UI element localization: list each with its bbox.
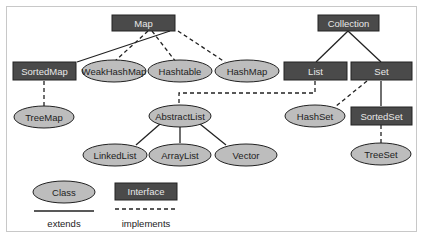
interface-collection: Collection	[318, 15, 379, 31]
svg-text:Vector: Vector	[233, 150, 260, 161]
svg-text:List: List	[308, 66, 323, 77]
edge-set-collection	[348, 31, 381, 62]
class-hashtable: Hashtable	[148, 60, 212, 82]
svg-text:Set: Set	[374, 66, 389, 77]
svg-text:Hashtable: Hashtable	[159, 66, 202, 77]
class-hierarchy-diagram: Map SortedMap Collection List Set Sorted…	[0, 0, 423, 241]
legend-extends-label: extends	[47, 218, 81, 229]
svg-text:WeakHashMap: WeakHashMap	[82, 66, 147, 77]
svg-text:AbstractList: AbstractList	[155, 111, 205, 122]
class-abstractlist: AbstractList	[149, 105, 211, 127]
interface-sortedset: SortedSet	[351, 107, 412, 125]
legend-implements-label: implements	[122, 218, 171, 229]
edge-vector-abstractlist	[200, 124, 226, 145]
edge-sortedmap-map	[77, 31, 170, 62]
class-treeset: TreeSet	[351, 143, 411, 165]
interface-sortedmap: SortedMap	[13, 62, 76, 80]
edge-list-collection	[316, 31, 348, 62]
class-weakhashmap: WeakHashMap	[82, 60, 147, 82]
class-vector: Vector	[215, 144, 277, 166]
class-treemap: TreeMap	[14, 106, 74, 128]
connectors	[44, 31, 381, 145]
svg-text:HashMap: HashMap	[227, 66, 268, 77]
svg-text:ArrayList: ArrayList	[161, 150, 199, 161]
class-hashmap: HashMap	[215, 60, 279, 82]
class-arraylist: ArrayList	[149, 144, 211, 166]
svg-text:Collection: Collection	[328, 18, 370, 29]
interface-map: Map	[112, 15, 175, 31]
svg-text:TreeMap: TreeMap	[25, 112, 63, 123]
edge-abstractlist-list	[179, 81, 315, 106]
interface-set: Set	[351, 62, 412, 80]
interface-list: List	[284, 62, 347, 80]
edge-hashmap-map	[178, 31, 225, 62]
edge-weakhashmap-map	[114, 31, 148, 62]
svg-text:HashSet: HashSet	[297, 111, 334, 122]
edge-hashset-set	[335, 81, 367, 107]
class-hashset: HashSet	[285, 105, 345, 127]
svg-text:LinkedList: LinkedList	[94, 150, 137, 161]
svg-text:TreeSet: TreeSet	[364, 149, 398, 160]
legend-interface-symbol: Interface	[115, 183, 177, 200]
svg-text:Interface: Interface	[128, 186, 165, 197]
svg-text:Map: Map	[134, 18, 152, 29]
edge-linkedlist-abstractlist	[136, 124, 160, 145]
svg-text:SortedSet: SortedSet	[360, 111, 403, 122]
svg-text:Class: Class	[52, 187, 76, 198]
legend: Class Interface extends implements	[33, 181, 177, 229]
legend-class-symbol: Class	[33, 181, 95, 203]
class-linkedlist: LinkedList	[83, 144, 147, 166]
svg-text:SortedMap: SortedMap	[21, 66, 67, 77]
